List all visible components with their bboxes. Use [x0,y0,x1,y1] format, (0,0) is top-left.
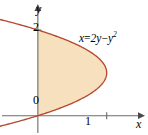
parabola-plot [0,0,148,135]
equation-exponent: 2 [113,30,117,39]
y-axis-tick-label-2: 2 [33,21,39,33]
x-axis-label: x [136,118,141,130]
figure-container: y x 2 0 1 x=2y−y2 [0,0,148,135]
equation-term-one: 2y [91,32,102,44]
x-axis-tick-label-1: 1 [85,115,91,127]
curve-equation-label: x=2y−y2 [79,33,117,45]
y-axis-label: y [36,3,41,15]
origin-label: 0 [33,94,39,106]
